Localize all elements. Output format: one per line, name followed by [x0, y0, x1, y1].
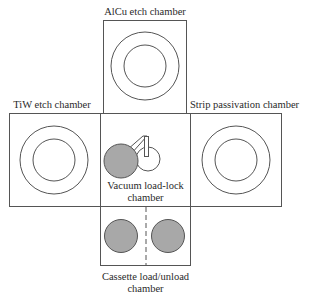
cassette-chamber-label-line2: chamber [95, 283, 196, 295]
tiw-etch-inner-ring [33, 139, 75, 181]
tiw-etch-outer-ring [20, 126, 88, 194]
tiw-etch-chamber-label: TiW etch chamber [6, 99, 98, 111]
load-lock-chamber-label-line1: Vacuum load-lock [100, 180, 191, 192]
strip-passivation-chamber-label: Strip passivation chamber [190, 99, 310, 111]
alcu-etch-inner-ring [124, 45, 166, 87]
strip-passivation-chamber-box [191, 114, 282, 207]
cassette-wafer-right [152, 220, 185, 253]
load-lock-wafer [104, 144, 138, 178]
cassette-chamber-label-line1: Cassette load/unload [95, 271, 196, 283]
strip-passivation-inner-ring [215, 139, 257, 181]
alcu-etch-chamber-label: AlCu etch chamber [98, 6, 192, 18]
alcu-etch-outer-ring [111, 32, 179, 100]
cassette-wafer-left [105, 220, 138, 253]
load-lock-chamber-label-line2: chamber [100, 192, 191, 204]
strip-passivation-outer-ring [202, 126, 270, 194]
robot-arm-vertical [145, 137, 149, 157]
cluster-tool-diagram [0, 0, 312, 299]
tiw-etch-chamber-box [10, 114, 101, 207]
